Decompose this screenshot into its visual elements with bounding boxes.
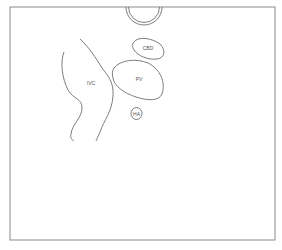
image-frame: [10, 7, 275, 240]
ultrasound-diagram: CBD PV IVC HA: [0, 0, 282, 250]
ha-label: HA: [133, 111, 141, 117]
pv-label: PV: [136, 76, 143, 82]
cbd-label: CBD: [143, 45, 154, 51]
ivc-label: IVC: [87, 80, 96, 86]
